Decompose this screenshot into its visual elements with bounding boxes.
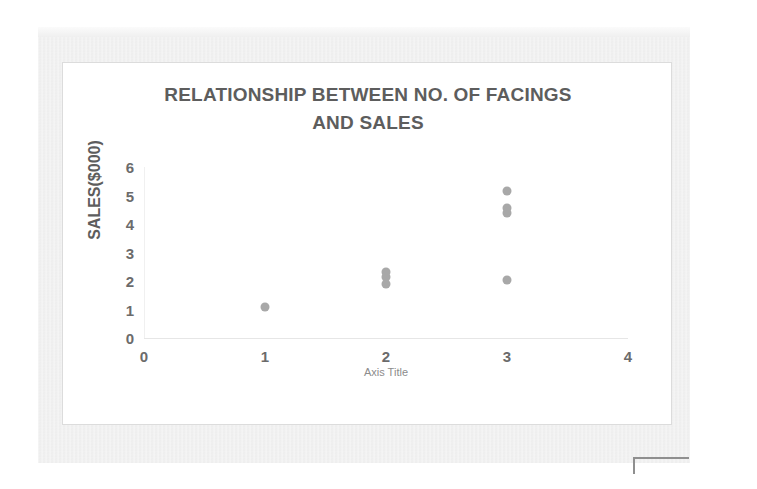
x-axis-tick-label: 4 xyxy=(608,348,648,365)
y-axis-title: SALES($000) xyxy=(86,110,104,270)
scan-top-edge xyxy=(38,27,690,37)
x-axis-tick-label: 2 xyxy=(366,348,406,365)
x-axis-line xyxy=(144,338,628,339)
scatter-point xyxy=(503,275,512,284)
y-axis-tick-label: 3 xyxy=(112,244,134,261)
corner-bracket-horizontal xyxy=(633,457,689,459)
x-axis-tick-label: 3 xyxy=(487,348,527,365)
corner-bracket-vertical xyxy=(633,457,635,474)
plot-area xyxy=(144,167,628,338)
y-axis-tick-label: 6 xyxy=(112,159,134,176)
x-axis-tick-label: 0 xyxy=(124,348,164,365)
x-axis-title: Axis Title xyxy=(144,366,628,378)
x-axis-tick-label: 1 xyxy=(245,348,285,365)
y-axis-tick-label: 0 xyxy=(112,330,134,347)
scatter-point xyxy=(503,208,512,217)
chart-title-line-2: AND SALES xyxy=(103,109,633,137)
scatter-point xyxy=(382,279,391,288)
y-axis-tick-label: 4 xyxy=(112,216,134,233)
chart-title-line-1: RELATIONSHIP BETWEEN NO. OF FACINGS xyxy=(103,81,633,109)
y-axis-tick-label: 5 xyxy=(112,187,134,204)
chart-title: RELATIONSHIP BETWEEN NO. OF FACINGS AND … xyxy=(103,81,633,137)
y-axis-tick-label: 2 xyxy=(112,273,134,290)
y-axis-line xyxy=(144,167,145,338)
y-axis-tick-label: 1 xyxy=(112,301,134,318)
scatter-point xyxy=(503,187,512,196)
chart-card: RELATIONSHIP BETWEEN NO. OF FACINGS AND … xyxy=(62,62,672,425)
corner-bracket-mark xyxy=(633,457,689,474)
scatter-point xyxy=(261,302,270,311)
